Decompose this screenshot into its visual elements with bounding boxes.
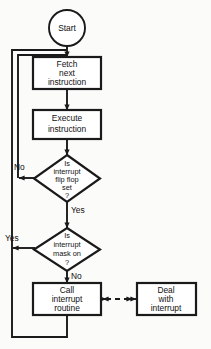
deal-interrupt-label-line3: interrupt	[151, 303, 182, 313]
mask-label-line1: Is	[64, 231, 70, 240]
node-execute-instruction[interactable]: Execute instruction	[33, 110, 101, 139]
edge-label-flipflop-no: No	[14, 162, 25, 172]
node-fetch-next-instruction[interactable]: Fetch next instruction	[33, 57, 101, 89]
fetch-label-line3: instruction	[48, 77, 87, 87]
mask-label-line2: interrupt	[53, 240, 80, 249]
edge-label-mask-yes: Yes	[5, 233, 19, 243]
node-decision-interrupt-mask[interactable]: Is interrupt mask on ?	[34, 228, 100, 271]
execute-label-line2: instruction	[48, 124, 87, 134]
node-decision-flip-flop[interactable]: Is interrupt flip flop set ?	[34, 155, 100, 202]
node-call-interrupt-routine[interactable]: Call interrupt routine	[33, 283, 101, 315]
flowchart-canvas: Start Fetch next instruction Execute ins…	[0, 0, 211, 349]
mask-label-line3: mask on	[53, 249, 81, 258]
call-routine-label-line3: routine	[54, 303, 80, 313]
flipflop-label-line5: ?	[65, 191, 69, 200]
mask-label-line4: ?	[65, 258, 69, 267]
node-start[interactable]: Start	[49, 10, 85, 46]
node-deal-with-interrupt[interactable]: Deal with interrupt	[137, 283, 196, 315]
execute-label-line1: Execute	[52, 113, 83, 123]
start-label: Start	[58, 23, 76, 33]
edge-label-flipflop-yes: Yes	[71, 205, 85, 215]
edge-label-mask-no: No	[71, 271, 82, 281]
flowchart-svg: Start Fetch next instruction Execute ins…	[0, 0, 211, 349]
